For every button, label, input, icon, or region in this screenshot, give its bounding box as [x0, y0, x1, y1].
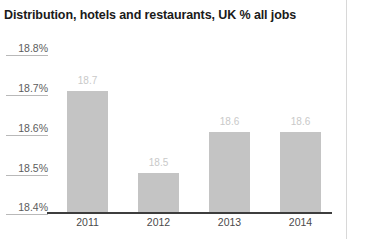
y-axis-tick: 18.4%	[6, 199, 48, 215]
bar-2013[interactable]	[209, 132, 250, 213]
bar-group-2013: 18.6 2013	[209, 0, 250, 239]
bar-group-2011: 18.7 2011	[67, 0, 108, 239]
x-axis-label-2014: 2014	[272, 216, 329, 228]
bar-2012[interactable]	[138, 173, 179, 213]
plot-area: 18.7 2011 18.5 2012 18.6 2013 18.6 2014	[52, 0, 346, 239]
y-axis-tick-label: 18.8%	[6, 42, 48, 54]
y-axis-tick: 18.6%	[6, 120, 48, 136]
bar-group-2014: 18.6 2014	[280, 0, 321, 239]
y-axis-tick-rule	[6, 135, 48, 136]
y-axis: 18.8% 18.7% 18.6% 18.5% 18.4%	[0, 0, 52, 239]
bar-2014[interactable]	[280, 132, 321, 213]
y-axis-tick-rule	[6, 55, 48, 56]
bar-value-label: 18.7	[67, 75, 108, 86]
y-axis-tick-rule	[6, 214, 48, 215]
chart-panel: Distribution, hotels and restaurants, UK…	[0, 0, 346, 239]
bar-group-2012: 18.5 2012	[138, 0, 179, 239]
right-gutter: ✕	[347, 0, 368, 239]
y-axis-tick: 18.8%	[6, 40, 48, 56]
x-axis-label-2012: 2012	[130, 216, 187, 228]
y-axis-tick-label: 18.4%	[6, 201, 48, 213]
bar-value-label: 18.6	[280, 116, 321, 127]
x-axis-label-2011: 2011	[59, 216, 116, 228]
bar-value-label: 18.5	[138, 157, 179, 168]
x-axis-line	[47, 212, 332, 214]
y-axis-tick: 18.5%	[6, 160, 48, 176]
x-axis-label-2013: 2013	[201, 216, 258, 228]
y-axis-tick-label: 18.7%	[6, 82, 48, 94]
bar-value-label: 18.6	[209, 116, 250, 127]
y-axis-tick-rule	[6, 95, 48, 96]
y-axis-tick-rule	[6, 175, 48, 176]
y-axis-tick-label: 18.6%	[6, 122, 48, 134]
bar-2011[interactable]	[67, 91, 108, 213]
y-axis-tick: 18.7%	[6, 80, 48, 96]
y-axis-tick-label: 18.5%	[6, 162, 48, 174]
